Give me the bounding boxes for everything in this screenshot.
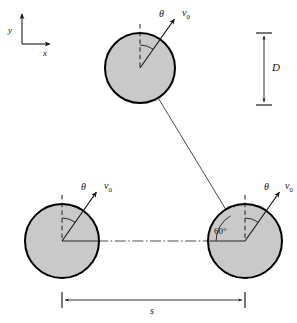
dimension-D-label: D: [272, 62, 280, 73]
x-axis-label: x: [43, 49, 47, 58]
bottom-right-theta-label: θ: [264, 182, 269, 192]
top-circle-theta-label: θ: [159, 9, 164, 19]
bottom-left-v0-subscript: 0: [108, 186, 112, 194]
bottom-right-v0-label: v0: [285, 181, 293, 194]
bottom-left-theta-label: θ: [81, 182, 86, 192]
y-axis-label: y: [8, 26, 12, 35]
top-circle-v0-label: v0: [182, 8, 190, 21]
bottom-right-v0-subscript: 0: [289, 186, 293, 194]
coordinate-axes: [22, 14, 50, 44]
top-circle-v0-subscript: 0: [186, 13, 190, 21]
bottom-left-v0-label: v0: [104, 181, 112, 194]
figure-container: y x θ v0 θ v0 θ v0 60° D s: [0, 0, 297, 323]
dimension-D: [256, 33, 272, 105]
dimension-s-label: s: [150, 306, 154, 316]
bottom-left-circle-group: [25, 192, 99, 278]
top-circle-group: [105, 19, 175, 103]
sixty-degree-label: 60°: [214, 227, 227, 236]
